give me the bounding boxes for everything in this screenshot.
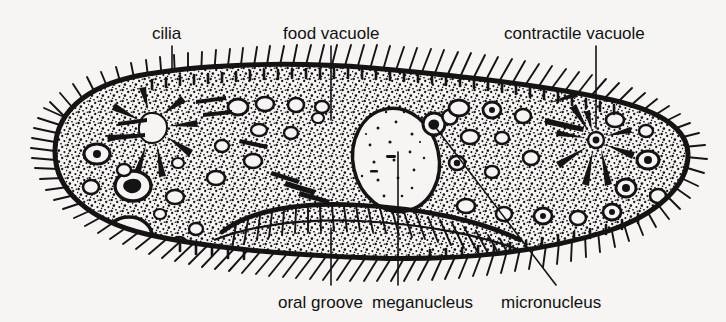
- label-cilia: cilia: [152, 24, 182, 43]
- label-contractile-vacuole: contractile vacuole: [504, 24, 645, 43]
- label-food-vacuole: food vacuole: [283, 24, 379, 43]
- paramecium-diagram: ciliafood vacuolecontractile vacuoleoral…: [0, 0, 726, 322]
- label-micronucleus: micronucleus: [501, 293, 601, 312]
- label-meganucleus: meganucleus: [372, 293, 473, 312]
- label-oral-groove: oral groove: [278, 293, 363, 312]
